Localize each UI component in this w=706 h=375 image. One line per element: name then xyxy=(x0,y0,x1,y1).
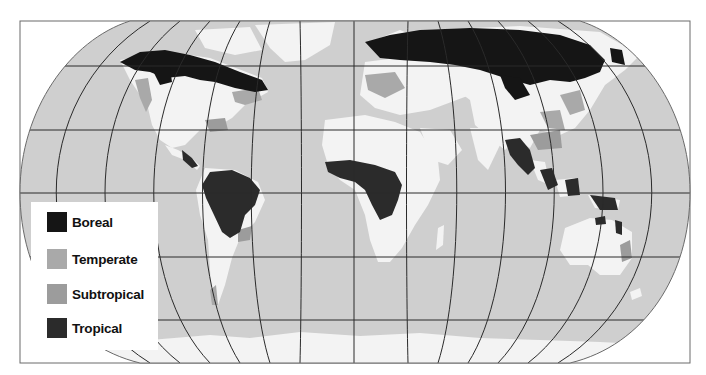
legend-swatch-boreal xyxy=(47,212,67,232)
legend-item-subtropical: Subtropical xyxy=(47,284,144,304)
legend-swatch-tropical xyxy=(47,318,67,338)
legend-item-temperate: Temperate xyxy=(47,249,137,269)
legend-swatch-temperate xyxy=(47,249,67,269)
legend-label: Temperate xyxy=(72,252,137,267)
legend-swatch-subtropical xyxy=(47,284,67,304)
legend-label: Tropical xyxy=(72,321,122,336)
legend-item-tropical: Tropical xyxy=(47,318,122,338)
map-legend: Boreal Temperate Subtropical Tropical xyxy=(31,202,158,350)
legend-label: Boreal xyxy=(72,215,113,230)
legend-label: Subtropical xyxy=(72,287,144,302)
legend-item-boreal: Boreal xyxy=(47,212,113,232)
